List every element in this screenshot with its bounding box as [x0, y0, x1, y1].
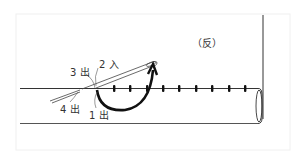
- step-4-label: 4 出: [60, 105, 80, 115]
- needle-icon: [82, 61, 157, 89]
- rolled-hem-end: [256, 90, 262, 122]
- sewing-diagram: [0, 0, 306, 157]
- step-1-label: 1 出: [89, 111, 109, 121]
- side-label: （反）: [192, 39, 222, 49]
- step-3-label: 3 出: [70, 68, 90, 78]
- outer-frame: [16, 14, 290, 150]
- thread-tail: [50, 90, 80, 103]
- step-2-label: 2 入: [99, 60, 119, 70]
- thread-arrow: [97, 70, 153, 110]
